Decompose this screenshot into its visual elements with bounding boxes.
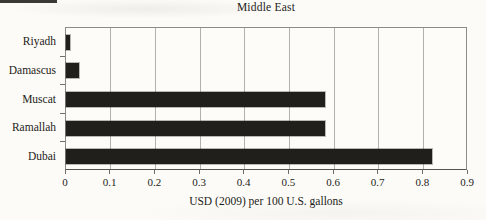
gridline [334, 28, 335, 169]
scan-artifact [0, 0, 57, 3]
y-category-label: Dubai [0, 149, 56, 163]
y-axis-tick [60, 141, 65, 142]
gridline [423, 28, 424, 169]
x-axis-tick [333, 170, 334, 174]
x-axis-tick [422, 170, 423, 174]
x-axis-tick [65, 170, 66, 174]
x-tick-label: 0.7 [360, 176, 396, 188]
x-axis-tick [243, 170, 244, 174]
bar-ramallah [66, 121, 325, 136]
plot-area [65, 27, 467, 170]
x-tick-label: 0.2 [136, 176, 172, 188]
x-axis-tick [154, 170, 155, 174]
bar-damascus [66, 63, 79, 78]
gridline [378, 28, 379, 169]
x-tick-label: 0.5 [270, 176, 306, 188]
x-axis-tick [377, 170, 378, 174]
y-axis-tick [60, 56, 65, 57]
y-category-label: Ramallah [0, 120, 56, 134]
x-tick-label: 0 [47, 176, 83, 188]
chart-title: Middle East [65, 1, 467, 13]
x-tick-label: 0.3 [181, 176, 217, 188]
y-category-label: Muscat [0, 92, 56, 106]
x-axis-tick [467, 170, 468, 174]
x-axis-title: USD (2009) per 100 U.S. gallons [65, 195, 467, 207]
x-tick-label: 0.1 [92, 176, 128, 188]
x-axis-tick [109, 170, 110, 174]
x-tick-label: 0.4 [226, 176, 262, 188]
x-tick-label: 0.9 [449, 176, 485, 188]
y-axis-tick [60, 113, 65, 114]
y-category-label: Damascus [0, 63, 56, 77]
x-axis-tick [199, 170, 200, 174]
bar-chart-figure: Middle East RiyadhDamascusMuscatRamallah… [0, 0, 486, 220]
x-axis-tick [288, 170, 289, 174]
bar-muscat [66, 92, 325, 107]
y-category-label: Riyadh [0, 34, 56, 48]
bar-riyadh [66, 35, 70, 50]
x-tick-label: 0.8 [404, 176, 440, 188]
bar-dubai [66, 149, 432, 164]
y-axis-tick [60, 84, 65, 85]
x-tick-label: 0.6 [315, 176, 351, 188]
